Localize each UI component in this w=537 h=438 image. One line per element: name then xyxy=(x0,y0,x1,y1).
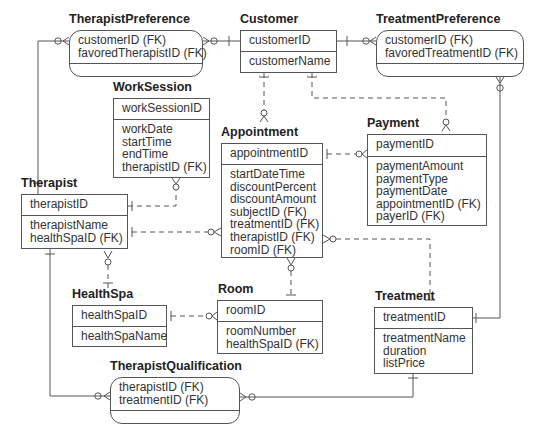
key-attribute: treatmentID (FK) xyxy=(119,394,239,407)
entity-title: WorkSession xyxy=(113,80,192,94)
attribute: endTime xyxy=(122,148,209,161)
key-attribute: paymentID xyxy=(376,137,486,151)
entity-box: paymentID paymentAmount paymentType paym… xyxy=(367,134,487,226)
key-attribute: therapistID xyxy=(30,197,127,211)
entity-box: appointmentID startDateTime discountPerc… xyxy=(221,143,323,258)
attribute: roomID (FK) xyxy=(230,244,322,257)
key-attribute: favoredTherapistID (FK) xyxy=(78,47,202,60)
attribute: discountAmount xyxy=(230,193,322,206)
entity-title: Appointment xyxy=(221,125,298,139)
entity-box: therapistID (FK) treatmentID (FK) xyxy=(110,377,240,424)
key-attribute: customerID xyxy=(249,33,336,47)
key-attribute: treatmentID xyxy=(383,310,472,324)
entity-box: roomID roomNumber healthSpaID (FK) xyxy=(217,300,323,354)
entity-box: customerID (FK) favoredTreatmentID (FK) xyxy=(376,30,524,77)
entity-title: Payment xyxy=(367,116,419,130)
entity-title: TherapistPreference xyxy=(69,12,190,26)
attribute: therapistID (FK) xyxy=(122,161,209,174)
attribute: healthSpaID (FK) xyxy=(226,338,322,351)
attribute: listPrice xyxy=(383,357,472,370)
entity-box: customerID (FK) favoredTherapistID (FK) xyxy=(69,30,203,77)
attribute: roomNumber xyxy=(226,325,322,338)
attribute: paymentDate xyxy=(376,185,486,198)
attribute: workDate xyxy=(122,123,209,136)
entity-title: Room xyxy=(218,282,253,296)
attribute: therapistName xyxy=(30,219,127,232)
key-attribute: workSessionID xyxy=(122,101,209,115)
attribute: paymentAmount xyxy=(376,160,486,173)
attribute: therapistID (FK) xyxy=(230,231,322,244)
entity-box: customerID customerName xyxy=(240,30,337,73)
entity-box: therapistID therapistName healthSpaID (F… xyxy=(21,194,128,249)
attribute: payerID (FK) xyxy=(376,210,486,223)
entity-title: TherapistQualification xyxy=(110,359,242,373)
key-attribute: appointmentID xyxy=(230,146,322,160)
attribute: healthSpaID (FK) xyxy=(30,232,127,245)
entity-title: Customer xyxy=(240,12,298,26)
entity-title: Therapist xyxy=(21,176,77,190)
attribute: startDateTime xyxy=(230,168,322,181)
entity-title: Treatment xyxy=(375,289,435,303)
attribute: treatmentName xyxy=(383,332,472,345)
attribute: customerName xyxy=(249,55,336,68)
entity-box: healthSpaID healthSpaName xyxy=(72,305,167,347)
entity-title: HealthSpa xyxy=(72,287,133,301)
entity-title: TreatmentPreference xyxy=(376,12,500,26)
key-attribute: favoredTreatmentID (FK) xyxy=(385,47,523,60)
key-attribute: healthSpaID xyxy=(81,308,166,322)
attribute: healthSpaName xyxy=(81,330,166,343)
key-attribute: roomID xyxy=(226,303,322,317)
entity-box: treatmentID treatmentName duration listP… xyxy=(374,307,473,374)
entity-box: workSessionID workDate startTime endTime… xyxy=(113,98,210,178)
